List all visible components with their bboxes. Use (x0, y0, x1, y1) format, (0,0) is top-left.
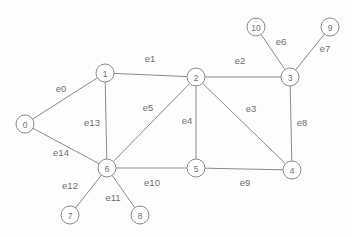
graph-node-8: 8 (131, 206, 149, 224)
graph-node-10: 10 (247, 18, 265, 36)
edge-label-e7: e7 (320, 43, 331, 54)
graph-node-6: 6 (98, 159, 116, 177)
node-label-3: 3 (288, 73, 293, 83)
graph-node-5: 5 (187, 159, 205, 177)
graph-edge-e5 (113, 83, 189, 161)
edge-label-e4: e4 (182, 115, 193, 126)
edge-label-e12: e12 (62, 180, 78, 191)
node-label-5: 5 (194, 164, 199, 174)
node-label-1: 1 (103, 69, 108, 79)
edge-label-e8: e8 (297, 117, 308, 128)
node-label-9: 9 (328, 23, 333, 33)
node-label-0: 0 (23, 120, 28, 130)
edge-label-e2: e2 (235, 55, 246, 66)
edge-label-e9: e9 (240, 177, 251, 188)
graph-node-4: 4 (283, 161, 301, 179)
graph-edge-e8 (290, 86, 292, 161)
node-label-2: 2 (194, 73, 199, 83)
node-label-6: 6 (105, 164, 110, 174)
edge-label-e11: e11 (105, 192, 120, 203)
edge-label-e10: e10 (144, 177, 160, 188)
graph-node-2: 2 (187, 68, 205, 86)
graph-edge-e13 (105, 82, 107, 159)
graph-node-9: 9 (321, 18, 339, 36)
edge-label-e1: e1 (145, 53, 156, 64)
edge-label-e3: e3 (246, 103, 257, 114)
graph-edge-e1 (114, 73, 187, 76)
edge-label-e0: e0 (56, 83, 67, 94)
node-label-10: 10 (251, 23, 261, 33)
graph-edge-e12 (76, 175, 102, 208)
node-label-8: 8 (138, 211, 143, 221)
graph-node-1: 1 (96, 64, 114, 82)
graph-edge-e3 (202, 83, 285, 163)
graph-node-7: 7 (61, 206, 79, 224)
edge-label-e6: e6 (276, 36, 287, 47)
edge-label-e5: e5 (143, 102, 154, 113)
edge-label-e14: e14 (53, 147, 69, 158)
graph-edge-e9 (205, 168, 283, 170)
graph-node-3: 3 (281, 68, 299, 86)
graph-diagram: 012345678910 e0e1e2e3e4e5e6e7e8e9e10e11e… (0, 0, 352, 237)
node-label-4: 4 (290, 166, 295, 176)
node-label-7: 7 (68, 211, 73, 221)
graph-canvas: 012345678910 e0e1e2e3e4e5e6e7e8e9e10e11e… (0, 0, 352, 237)
edge-label-e13: e13 (84, 117, 100, 128)
graph-node-0: 0 (16, 115, 34, 133)
